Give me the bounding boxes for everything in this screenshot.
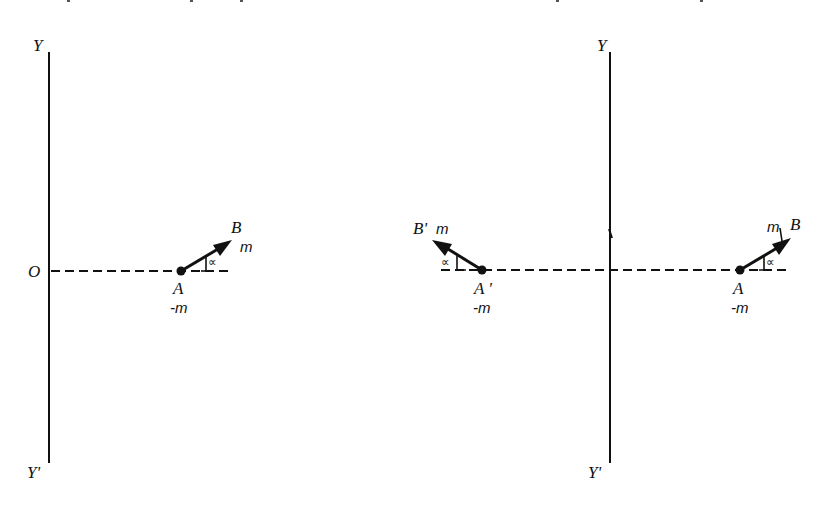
- right-point-A: [736, 266, 745, 275]
- image-arrowhead-icon: [432, 240, 452, 256]
- right-point-A-label: A: [732, 279, 744, 298]
- image-point-A: [478, 266, 487, 275]
- left-point-B-charge: m: [240, 238, 253, 255]
- right-axis-bottom-label: Y': [588, 463, 601, 482]
- dipole-image-diagram: Y Y' O ∝ B m A -m Y Y' ∝ B' m A ' -m: [0, 0, 828, 511]
- image-angle-label: ∝: [441, 255, 450, 269]
- image-point-B-charge: m: [436, 220, 449, 237]
- image-point-A-charge: -m: [473, 299, 491, 316]
- left-arrowhead-icon: [213, 240, 232, 256]
- right-angle-label: ∝: [766, 255, 775, 269]
- right-axis-top-label: Y: [597, 36, 608, 55]
- image-dipole-vector: [448, 249, 482, 270]
- left-point-B-label: B: [231, 218, 242, 237]
- left-point-A: [177, 267, 186, 276]
- left-diagram: Y Y' O ∝ B m A -m: [27, 36, 253, 482]
- right-point-B-charge: m: [767, 218, 780, 235]
- right-point-B-label: B: [790, 215, 801, 234]
- image-point-B-label: B': [413, 219, 427, 238]
- origin-label: O: [28, 262, 40, 281]
- right-diagram: Y Y' ∝ B' m A ' -m ∝ m B A -m: [413, 36, 801, 482]
- left-point-A-charge: -m: [170, 299, 188, 316]
- left-point-A-label: A: [172, 279, 184, 298]
- cropped-text-fragments: [67, 0, 703, 2]
- left-axis-bottom-label: Y': [27, 463, 40, 482]
- left-angle-label: ∝: [208, 255, 217, 269]
- left-axis-top-label: Y: [33, 36, 44, 55]
- right-point-A-charge: -m: [731, 299, 749, 316]
- image-point-A-label: A ': [473, 279, 492, 298]
- charge-leader-line: [780, 228, 782, 241]
